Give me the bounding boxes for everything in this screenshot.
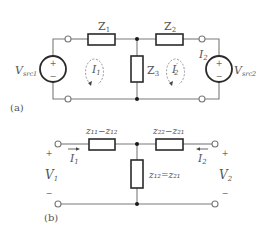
source-2-plus: + <box>216 59 223 68</box>
label-z12-equals-z21: z₁₂=z₂₁ <box>148 170 180 180</box>
label-vsrc1: Vsrc1 <box>15 64 37 78</box>
node-b-bottom <box>135 202 139 206</box>
source-2-minus: − <box>216 72 223 81</box>
label-i1: I1 <box>91 63 101 77</box>
terminal-a-top-right <box>199 36 205 42</box>
terminal-b-top-left <box>55 141 61 147</box>
impedance-z11-minus-z12 <box>89 139 115 150</box>
port-1-minus: − <box>46 189 53 198</box>
wire-a-right-bottom <box>205 82 219 99</box>
source-1-plus: + <box>50 59 57 68</box>
label-v2: V2 <box>219 168 233 183</box>
panel-a-circuit: + − + − Z1 Z2 Z3 Vsrc1 Vsrc2 I1 I′2 I2 (… <box>10 20 256 113</box>
panel-a-label: (a) <box>10 102 24 113</box>
label-i1-b: I1 <box>69 152 79 166</box>
label-z2: Z2 <box>164 20 176 34</box>
impedance-z3 <box>131 56 143 82</box>
label-i2-b: I2 <box>197 152 207 166</box>
terminal-a-top-left <box>65 36 71 42</box>
arrowhead-i1 <box>76 147 80 150</box>
label-z1: Z1 <box>98 20 110 34</box>
port-2-plus: + <box>222 149 229 158</box>
panel-b-label: (b) <box>44 212 58 223</box>
wire-a-left-bottom <box>53 82 65 99</box>
voltage-source-1: + − <box>40 56 66 82</box>
port-1-plus: + <box>46 149 53 158</box>
wire-a-left-top <box>53 39 65 56</box>
label-vsrc2: Vsrc2 <box>234 64 256 78</box>
panel-b-circuit: z₁₁−z₁₂ z₂₂−z₂₁ z₁₂=z₂₁ I1 I2 + V1 − + V… <box>44 126 233 223</box>
impedance-z12-equals-z21 <box>131 160 143 188</box>
label-z3: Z3 <box>147 64 159 78</box>
terminal-b-bottom-right <box>212 201 218 207</box>
impedance-z1 <box>88 34 115 45</box>
arrowhead-i2 <box>196 147 200 150</box>
label-z22-minus-z21: z₂₂−z₂₁ <box>152 126 184 136</box>
impedance-z22-minus-z21 <box>156 139 183 150</box>
terminal-a-bottom-right <box>199 96 205 102</box>
node-a-bottom <box>135 97 139 101</box>
voltage-source-2: + − <box>206 56 232 82</box>
two-port-circuit-figure: + − + − Z1 Z2 Z3 Vsrc1 Vsrc2 I1 I′2 I2 (… <box>0 0 266 235</box>
impedance-z2 <box>156 34 183 45</box>
node-a-top <box>135 37 139 41</box>
label-z11-minus-z12: z₁₁−z₁₂ <box>85 126 118 136</box>
loop-arrowhead-1 <box>88 81 92 86</box>
port-2-minus: − <box>222 189 229 198</box>
label-v1: V1 <box>45 168 58 183</box>
terminal-b-bottom-left <box>55 201 61 207</box>
label-i2: I2 <box>198 48 208 62</box>
loop-arrowhead-2 <box>169 81 173 86</box>
source-1-minus: − <box>50 72 57 81</box>
terminal-b-top-right <box>212 141 218 147</box>
label-i2-prime: I′2 <box>171 62 179 77</box>
terminal-a-bottom-left <box>65 96 71 102</box>
node-b-top <box>135 142 139 146</box>
